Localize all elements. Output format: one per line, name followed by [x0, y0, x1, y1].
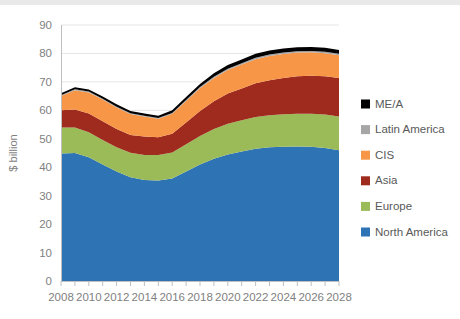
- stacked-area-chart: 0102030405060708090200820102012201420162…: [0, 0, 460, 319]
- y-tick-label: 0: [46, 275, 52, 287]
- area-series-north-america: [61, 146, 339, 281]
- y-tick-label: 70: [39, 76, 52, 88]
- legend-swatch: [361, 228, 370, 237]
- legend-label: Europe: [375, 200, 412, 212]
- y-tick-label: 10: [39, 247, 52, 259]
- y-tick-label: 60: [39, 104, 52, 116]
- x-tick-label: 2026: [298, 291, 324, 303]
- legend-swatch: [361, 100, 370, 109]
- y-tick-label: 50: [39, 133, 52, 145]
- legend-swatch: [361, 125, 370, 134]
- y-axis-tick-labels: 0102030405060708090: [39, 19, 52, 287]
- y-tick-label: 30: [39, 190, 52, 202]
- legend-label: CIS: [375, 149, 395, 161]
- legend-swatch: [361, 151, 370, 160]
- header-band: [0, 0, 460, 5]
- legend-label: Latin America: [375, 123, 445, 135]
- legend-label: Asia: [375, 174, 398, 186]
- x-tick-label: 2010: [76, 291, 102, 303]
- legend-label: North America: [375, 226, 448, 238]
- x-tick-label: 2016: [159, 291, 185, 303]
- x-tick-label: 2028: [326, 291, 352, 303]
- chart-canvas: 0102030405060708090200820102012201420162…: [0, 0, 460, 319]
- y-tick-label: 90: [39, 19, 52, 31]
- x-tick-label: 2014: [132, 291, 158, 303]
- x-tick-label: 2008: [48, 291, 74, 303]
- x-tick-label: 2012: [104, 291, 130, 303]
- legend-swatch: [361, 202, 370, 211]
- x-tick-label: 2018: [187, 291, 213, 303]
- legend-swatch: [361, 176, 370, 185]
- x-tick-label: 2020: [215, 291, 241, 303]
- legend-label: ME/A: [375, 98, 403, 110]
- x-tick-label: 2024: [271, 291, 297, 303]
- y-axis-title: $ billion: [7, 134, 19, 171]
- y-tick-label: 40: [39, 161, 52, 173]
- x-axis-tick-labels: 2008201020122014201620182020202220242026…: [48, 291, 352, 303]
- legend: ME/ALatin AmericaCISAsiaEuropeNorth Amer…: [361, 98, 448, 238]
- y-tick-label: 80: [39, 47, 52, 59]
- y-tick-label: 20: [39, 218, 52, 230]
- x-tick-label: 2022: [243, 291, 269, 303]
